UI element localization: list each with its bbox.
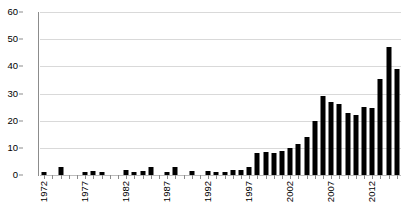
bar-slot: [245, 12, 253, 175]
bar-slot: [278, 12, 286, 175]
bar-slot: [40, 12, 48, 175]
bar-slot: [97, 12, 105, 175]
x-tick-label-1987: 1987: [162, 181, 172, 202]
bar-2002[interactable]: [288, 148, 293, 175]
bar-slot: [229, 12, 237, 175]
bar-2005[interactable]: [312, 121, 317, 175]
bar-slot: [393, 12, 401, 175]
bar-slot: [196, 12, 204, 175]
x-tick-mark-1983: [134, 175, 135, 179]
x-tick-mark-2001: [282, 175, 283, 179]
bar-2013[interactable]: [378, 79, 383, 175]
x-tick-mark-1981: [118, 175, 119, 179]
bar-slot: [253, 12, 261, 175]
bar-2006[interactable]: [321, 96, 326, 175]
bar-2004[interactable]: [304, 137, 309, 175]
y-tick-label-40: 40: [7, 62, 18, 72]
x-tick-mark-2005: [315, 175, 316, 179]
bar-2009[interactable]: [345, 113, 350, 175]
bar-2008[interactable]: [337, 104, 342, 175]
x-tick-mark-2004: [307, 175, 308, 179]
bar-2011[interactable]: [362, 107, 367, 175]
bar-slot: [319, 12, 327, 175]
bar-2007[interactable]: [329, 102, 334, 175]
x-tick-mark-1992: [208, 175, 209, 179]
bar-slot: [73, 12, 81, 175]
x-tick-mark-1985: [151, 175, 152, 179]
y-tick-label-10: 10: [7, 143, 18, 153]
y-tick-label-60: 60: [7, 7, 18, 17]
x-tick-mark-1988: [175, 175, 176, 179]
bar-chart: 0102030405060 19721977198219871992199720…: [0, 0, 407, 218]
x-tick-mark-2013: [380, 175, 381, 179]
x-tick-mark-2012: [372, 175, 373, 179]
y-tick-mark-40: [19, 66, 23, 67]
x-tick-mark-1996: [241, 175, 242, 179]
bar-2014[interactable]: [386, 47, 391, 175]
x-tick-mark-1984: [143, 175, 144, 179]
bar-slot: [385, 12, 393, 175]
x-tick-mark-2015: [397, 175, 398, 179]
x-tick-mark-1990: [192, 175, 193, 179]
y-tick-mark-30: [19, 93, 23, 94]
bar-slot: [122, 12, 130, 175]
x-tick-mark-1997: [249, 175, 250, 179]
x-tick-mark-1995: [233, 175, 234, 179]
x-tick-label-1992: 1992: [203, 181, 213, 202]
bar-slot: [204, 12, 212, 175]
y-tick-label-20: 20: [7, 116, 18, 126]
bar-slot: [56, 12, 64, 175]
x-tick-mark-1975: [69, 175, 70, 179]
x-tick-mark-1974: [61, 175, 62, 179]
bar-1974[interactable]: [58, 167, 63, 175]
x-tick-mark-1986: [159, 175, 160, 179]
bar-2010[interactable]: [353, 115, 358, 175]
bar-slot: [171, 12, 179, 175]
x-tick-mark-1994: [225, 175, 226, 179]
bar-2001[interactable]: [280, 151, 285, 175]
x-tick-mark-1987: [167, 175, 168, 179]
bar-slot: [155, 12, 163, 175]
bar-slot: [335, 12, 343, 175]
bar-slot: [360, 12, 368, 175]
y-axis: 0102030405060: [0, 12, 40, 175]
bar-slot: [212, 12, 220, 175]
x-tick-mark-2011: [364, 175, 365, 179]
bar-1988[interactable]: [173, 167, 178, 175]
x-tick-mark-1991: [200, 175, 201, 179]
bar-slot: [262, 12, 270, 175]
bar-slot: [188, 12, 196, 175]
bar-slot: [327, 12, 335, 175]
bar-2015[interactable]: [394, 69, 399, 175]
bar-slot: [237, 12, 245, 175]
bar-series: [40, 12, 401, 175]
bar-slot: [114, 12, 122, 175]
x-tick-mark-1977: [85, 175, 86, 179]
y-tick-label-50: 50: [7, 34, 18, 44]
bar-2003[interactable]: [296, 144, 301, 175]
bar-1985[interactable]: [148, 167, 153, 175]
x-tick-mark-1993: [216, 175, 217, 179]
bar-1999[interactable]: [263, 152, 268, 175]
bar-2000[interactable]: [271, 153, 276, 175]
bar-1998[interactable]: [255, 153, 260, 175]
bar-slot: [311, 12, 319, 175]
y-tick-mark-0: [19, 175, 23, 176]
x-tick-mark-2006: [323, 175, 324, 179]
x-tick-mark-2009: [348, 175, 349, 179]
bar-slot: [270, 12, 278, 175]
bar-slot: [294, 12, 302, 175]
bar-slot: [303, 12, 311, 175]
bar-1997[interactable]: [247, 167, 252, 175]
x-tick-mark-2002: [290, 175, 291, 179]
y-axis-line: [38, 12, 39, 176]
y-tick-mark-20: [19, 120, 23, 121]
bar-slot: [138, 12, 146, 175]
x-tick-mark-1979: [102, 175, 103, 179]
y-tick-mark-50: [19, 39, 23, 40]
x-tick-mark-2010: [356, 175, 357, 179]
bar-slot: [65, 12, 73, 175]
x-tick-mark-1976: [77, 175, 78, 179]
x-tick-label-1972: 1972: [39, 181, 49, 202]
bar-2012[interactable]: [370, 108, 375, 175]
